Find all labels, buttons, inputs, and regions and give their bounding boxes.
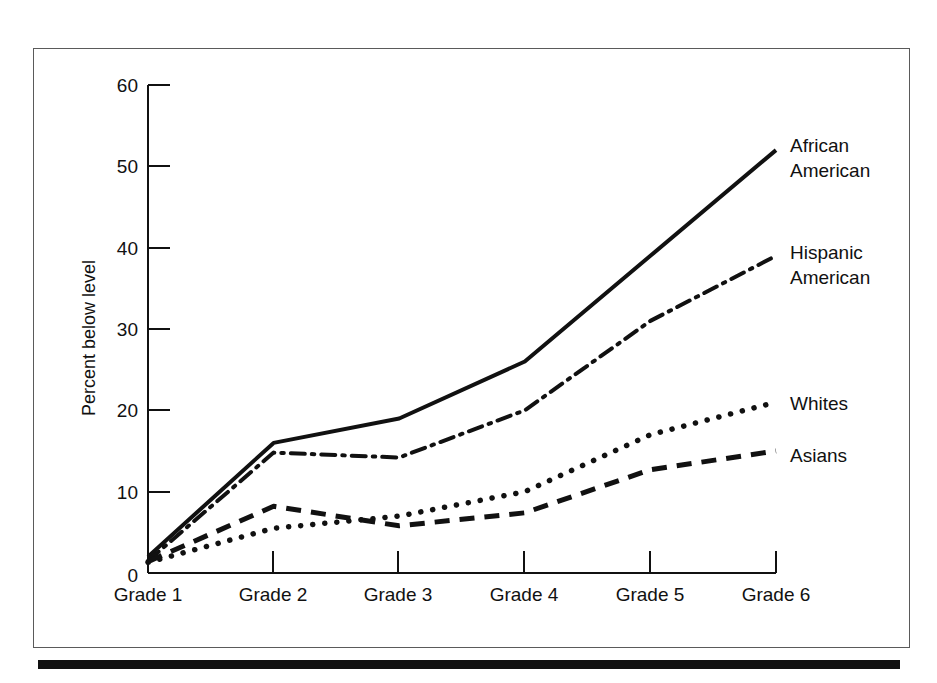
x-tick-label-grade-2: Grade 2: [239, 584, 308, 605]
y-tick-label-20: 20: [117, 400, 138, 421]
x-tick-label-grade-1: Grade 1: [114, 584, 183, 605]
series-layer: [148, 150, 776, 562]
x-tick-label-grade-4: Grade 4: [490, 584, 559, 605]
series-line-whites: [148, 402, 776, 562]
series-label-hispanic-american-line1: Hispanic: [790, 242, 863, 263]
series-label-african-american-line1: African: [790, 135, 849, 156]
y-tick-label-40: 40: [117, 238, 138, 259]
x-tick-label-grade-6: Grade 6: [742, 584, 811, 605]
series-label-hispanic-american-line2: American: [790, 267, 870, 288]
y-tick-label-0: 0: [127, 565, 138, 586]
series-label-asians: Asians: [790, 445, 847, 466]
x-tick-label-grade-5: Grade 5: [616, 584, 685, 605]
y-tick-label-50: 50: [117, 156, 138, 177]
series-label-african-american-line2: American: [790, 160, 870, 181]
bottom-rule: [38, 660, 900, 669]
y-tick-label-10: 10: [117, 482, 138, 503]
series-line-hispanic-american: [148, 256, 776, 561]
series-label-whites: Whites: [790, 393, 848, 414]
series-line-asians: [148, 451, 776, 562]
y-tick-label-30: 30: [117, 319, 138, 340]
line-chart: 60 50 40 30 20 10 0 Percent below level …: [0, 0, 937, 683]
y-axis-title: Percent below level: [79, 260, 99, 416]
y-tick-label-60: 60: [117, 75, 138, 96]
x-tick-label-grade-3: Grade 3: [364, 584, 433, 605]
series-line-african-american: [148, 150, 776, 557]
